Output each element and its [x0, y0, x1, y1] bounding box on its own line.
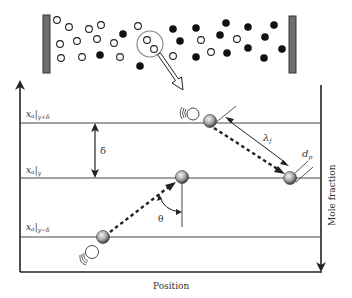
open-molecule	[86, 26, 93, 33]
open-molecule	[66, 24, 73, 31]
filled-molecule	[169, 25, 177, 33]
filled-molecule	[270, 21, 278, 29]
open-molecule	[170, 53, 177, 60]
lambda-label: λf	[262, 132, 273, 145]
delta-arrow: δ	[91, 123, 106, 178]
particle-mid-right	[284, 172, 297, 185]
filled-molecule	[260, 54, 268, 62]
filled-molecule	[244, 23, 252, 31]
right-wall	[289, 16, 296, 73]
open-molecule	[58, 55, 65, 62]
open-molecule	[117, 54, 124, 61]
filled-molecule	[136, 62, 144, 70]
open-molecules	[54, 17, 241, 62]
open-molecule	[94, 36, 101, 43]
open-molecule	[234, 36, 241, 43]
free-path-bottom	[110, 186, 170, 232]
ghost-particle-bottom	[80, 246, 99, 266]
filled-molecule	[278, 45, 286, 53]
x-axis-label: Position	[153, 281, 190, 291]
dp-tick-top-1	[214, 106, 236, 124]
dp-tick-1	[294, 161, 308, 174]
filled-molecule	[96, 51, 104, 59]
particle-mid-left	[176, 171, 189, 184]
diffusion-diagram: xa|y+δ xa|y xa|y−δ δ λf dp	[0, 0, 352, 298]
free-path-bottom-arrowhead-icon	[165, 182, 176, 191]
delta-label: δ	[100, 145, 106, 156]
open-molecule	[54, 17, 61, 24]
open-molecule	[98, 22, 105, 29]
label-y-plus-delta: xa|y+δ	[26, 109, 50, 121]
y-axis-label: Mole fraction	[327, 164, 337, 226]
left-wall	[43, 15, 50, 73]
open-molecule	[57, 41, 64, 48]
ghost-particle-top	[180, 107, 199, 120]
theta-arc-arrowhead-2-icon	[176, 209, 182, 215]
label-y: xa|y	[26, 165, 42, 177]
magnifier-icon	[137, 31, 163, 57]
axes	[15, 80, 326, 272]
open-molecule	[79, 54, 86, 61]
lambda-arrowhead-end-icon	[280, 160, 289, 166]
label-y-minus-delta: xa|y−δ	[26, 222, 50, 234]
particle-top	[204, 115, 217, 128]
filled-molecule	[192, 53, 200, 61]
filled-molecule	[176, 37, 184, 45]
filled-molecule	[216, 31, 224, 39]
open-molecule	[151, 46, 158, 53]
filled-molecule	[261, 33, 269, 41]
open-molecule	[74, 38, 81, 45]
filled-molecule	[222, 19, 230, 27]
open-molecule	[144, 37, 151, 44]
open-molecule	[208, 49, 215, 56]
filled-molecule	[244, 44, 252, 52]
dp-label: dp	[302, 148, 312, 161]
filled-molecule	[119, 30, 127, 38]
particle-bottom	[97, 231, 110, 244]
lambda-arrowhead-start-icon	[225, 117, 234, 123]
level-labels: xa|y+δ xa|y xa|y−δ	[26, 109, 50, 234]
theta-label: θ	[158, 214, 163, 224]
open-molecule	[198, 37, 205, 44]
open-molecule	[135, 23, 142, 30]
filled-molecules	[96, 19, 286, 70]
chamber	[43, 15, 296, 90]
filled-molecule	[223, 49, 231, 57]
filled-molecule	[192, 24, 200, 32]
open-molecule	[111, 40, 118, 47]
